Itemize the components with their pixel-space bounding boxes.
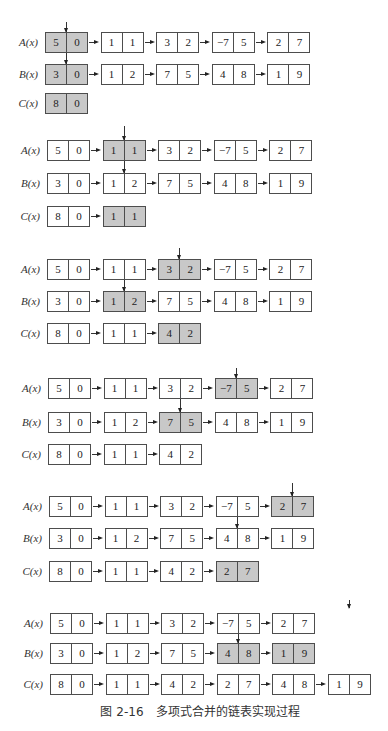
next-arrow-icon xyxy=(148,528,161,549)
next-arrow-icon xyxy=(88,32,101,53)
pointer-a-arrow-icon xyxy=(124,126,125,140)
poly-term-node: 27 xyxy=(271,496,314,517)
poly-term-node: 30 xyxy=(45,64,88,85)
next-arrow-icon xyxy=(147,412,160,433)
next-arrow-icon xyxy=(149,674,162,695)
next-arrow-icon xyxy=(199,64,212,85)
coefficient-cell: 1 xyxy=(329,675,349,694)
coefficient-cell: 1 xyxy=(105,379,125,398)
row-label: A(x) xyxy=(18,140,40,161)
coefficient-cell: 1 xyxy=(104,324,124,343)
coefficient-cell: 7 xyxy=(161,529,181,548)
next-arrow-icon xyxy=(257,173,270,194)
coefficient-cell: 1 xyxy=(271,413,291,432)
exponent-cell: 1 xyxy=(122,33,143,52)
linked-list: 8011 xyxy=(47,206,146,227)
exponent-cell: 0 xyxy=(70,529,91,548)
coefficient-cell: 5 xyxy=(50,497,70,516)
next-arrow-icon xyxy=(93,674,106,695)
pointer-a-arrow-icon xyxy=(179,248,180,259)
coefficient-cell: 1 xyxy=(273,644,293,663)
poly-term-node: 50 xyxy=(45,32,88,53)
poly-term-node: 19 xyxy=(272,643,315,664)
row-label: B(x) xyxy=(18,291,40,312)
next-arrow-icon xyxy=(260,613,273,634)
poly-term-node: 12 xyxy=(103,173,146,194)
poly-term-node: 80 xyxy=(50,674,93,695)
row-label: A(x) xyxy=(20,496,42,517)
coefficient-cell: −7 xyxy=(216,379,236,398)
exponent-cell: 5 xyxy=(235,260,256,279)
row-label: C(x) xyxy=(16,93,38,114)
next-arrow-icon xyxy=(204,643,217,664)
coefficient-cell: 2 xyxy=(217,562,237,581)
coefficient-cell: 1 xyxy=(107,644,127,663)
coefficient-cell: 3 xyxy=(157,33,177,52)
poly-term-node: 30 xyxy=(50,643,93,664)
coefficient-cell: 7 xyxy=(159,292,179,311)
next-arrow-icon xyxy=(147,444,160,465)
coefficient-cell: 5 xyxy=(49,379,69,398)
coefficient-cell: −7 xyxy=(217,497,237,516)
poly-term-node: 80 xyxy=(49,561,92,582)
poly-term-node: −75 xyxy=(214,140,257,161)
exponent-cell: 2 xyxy=(182,675,203,694)
poly-term-node: 50 xyxy=(48,378,91,399)
coefficient-cell: 1 xyxy=(107,614,127,633)
next-arrow-icon xyxy=(260,674,273,695)
coefficient-cell: 4 xyxy=(162,675,182,694)
coefficient-cell: 3 xyxy=(48,174,68,193)
exponent-cell: 8 xyxy=(238,644,259,663)
linked-list: 501132−7527 xyxy=(45,32,310,53)
coefficient-cell: 1 xyxy=(106,562,126,581)
poly-term-node: 12 xyxy=(106,643,149,664)
exponent-cell: 0 xyxy=(71,614,92,633)
coefficient-cell: 1 xyxy=(268,65,288,84)
exponent-cell: 8 xyxy=(235,292,256,311)
poly-term-node: 80 xyxy=(47,206,90,227)
exponent-cell: 0 xyxy=(71,675,92,694)
exponent-cell: 2 xyxy=(122,65,143,84)
linked-list: 501132−7527 xyxy=(50,613,315,634)
poly-term-node: 32 xyxy=(160,496,203,517)
linked-list: 501132−7527 xyxy=(47,140,312,161)
poly-term-node: 80 xyxy=(45,93,88,114)
coefficient-cell: 7 xyxy=(157,65,177,84)
next-arrow-icon xyxy=(146,140,159,161)
next-arrow-icon xyxy=(146,291,159,312)
exponent-cell: 2 xyxy=(126,529,147,548)
poly-term-node: 19 xyxy=(328,674,371,695)
coefficient-cell: 1 xyxy=(105,445,125,464)
poly-term-node: 75 xyxy=(159,412,202,433)
exponent-cell: 7 xyxy=(288,33,309,52)
exponent-cell: 9 xyxy=(292,529,313,548)
exponent-cell: 7 xyxy=(238,675,259,694)
coefficient-cell: 2 xyxy=(268,33,288,52)
merge-step-6: A(x) 501132−7527 B(x) 3012754819 C(x) 80… xyxy=(50,613,388,703)
row-label: B(x) xyxy=(20,528,42,549)
exponent-cell: 0 xyxy=(69,413,90,432)
poly-term-node: 27 xyxy=(269,140,312,161)
row-label: B(x) xyxy=(19,412,41,433)
merge-step-2: A(x) 501132−7527 B(x) 3012754819 C(x) 80… xyxy=(47,140,387,230)
poly-term-node: 19 xyxy=(267,64,310,85)
poly-term-node: −75 xyxy=(217,613,260,634)
coefficient-cell: 5 xyxy=(51,614,71,633)
next-arrow-icon xyxy=(258,378,271,399)
coefficient-cell: 1 xyxy=(107,675,127,694)
coefficient-cell: 4 xyxy=(160,445,180,464)
coefficient-cell: 5 xyxy=(48,141,68,160)
exponent-cell: 9 xyxy=(290,174,311,193)
exponent-cell: 7 xyxy=(290,141,311,160)
coefficient-cell: 4 xyxy=(215,292,235,311)
next-arrow-icon xyxy=(202,412,215,433)
row-label: A(x) xyxy=(19,378,41,399)
poly-term-node: 32 xyxy=(158,259,201,280)
next-arrow-icon xyxy=(204,674,217,695)
exponent-cell: 9 xyxy=(290,292,311,311)
pointer-b-arrow-icon xyxy=(238,634,239,643)
poly-term-node: 27 xyxy=(272,613,315,634)
row-label: A(x) xyxy=(16,32,38,53)
row-label: B(x) xyxy=(21,643,43,664)
exponent-cell: 2 xyxy=(179,260,200,279)
